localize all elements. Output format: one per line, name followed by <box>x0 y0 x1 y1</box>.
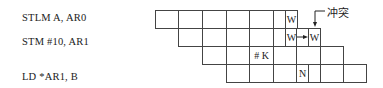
arrows <box>0 0 383 88</box>
conflict-label: 冲突 <box>327 4 349 20</box>
forward-arrow-icon <box>303 35 308 39</box>
down-arrow-icon <box>313 22 317 27</box>
